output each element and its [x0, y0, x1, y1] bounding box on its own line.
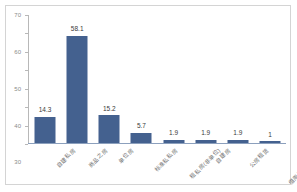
y-axis-tick-label: 70	[14, 12, 21, 18]
y-axis-tick-mark: 10	[25, 126, 28, 127]
y-axis-tick-label: 50	[14, 86, 21, 92]
bar-value-label: 1.9	[169, 130, 178, 137]
bar-value-label: 1.9	[233, 130, 242, 137]
bar[interactable]	[131, 133, 152, 144]
bar-slot: 5.7	[125, 15, 157, 143]
bar-value-label: 58.1	[71, 26, 84, 33]
bar-slot: 1	[254, 15, 286, 143]
y-axis-tick-mark: 40	[25, 70, 28, 71]
bar-value-label: 5.7	[137, 123, 146, 130]
bar-slot: 15.2	[93, 15, 125, 143]
bar-slot: 1.9	[222, 15, 254, 143]
y-axis-tick-label: 30	[14, 159, 21, 165]
category-label: 公房租赁	[249, 148, 270, 169]
bar[interactable]	[35, 117, 56, 143]
bar-slot: 1.9	[158, 15, 190, 143]
plot-area: 010203040506070 14.358.115.25.71.91.91.9…	[28, 15, 286, 144]
bar-slot: 58.1	[61, 15, 93, 143]
chart-screenshot: 010203040506070 14.358.115.25.71.91.91.9…	[0, 0, 297, 192]
x-axis-line	[28, 143, 286, 144]
bar[interactable]	[67, 36, 88, 143]
y-axis-tick-mark: 50	[25, 52, 28, 53]
y-axis-tick-label: 40	[14, 123, 21, 129]
y-axis-tick-mark: 30	[25, 89, 28, 90]
category-label: 标准私私房	[154, 148, 179, 173]
category-label: 租私房(非单位)	[189, 148, 221, 180]
bar[interactable]	[99, 115, 120, 143]
bar-value-label: 1	[268, 132, 272, 139]
y-axis-tick-mark: 20	[25, 107, 28, 108]
bar-value-label: 1.9	[201, 130, 210, 137]
bars-layer: 14.358.115.25.71.91.91.91	[29, 15, 286, 143]
bar-value-label: 15.2	[103, 106, 116, 113]
bar[interactable]	[195, 140, 216, 144]
category-label: 自建私房	[56, 148, 77, 169]
bar-slot: 14.3	[29, 15, 61, 143]
bar[interactable]	[163, 140, 184, 144]
y-axis-tick-mark: 0	[25, 144, 28, 145]
chart-frame: 010203040506070 14.358.115.25.71.91.91.9…	[5, 5, 291, 185]
bar-value-label: 14.3	[39, 107, 52, 114]
y-axis-tick-mark: 70	[25, 15, 28, 16]
category-label: 借用自（父母亲）	[288, 148, 297, 186]
category-label: 单位房	[119, 148, 136, 165]
y-axis-tick-label: 60	[14, 49, 21, 55]
category-label: 商品之房	[88, 148, 109, 169]
bar[interactable]	[259, 141, 280, 143]
y-axis-tick-mark: 60	[25, 33, 28, 34]
bar[interactable]	[227, 140, 248, 144]
bar-slot: 1.9	[190, 15, 222, 143]
